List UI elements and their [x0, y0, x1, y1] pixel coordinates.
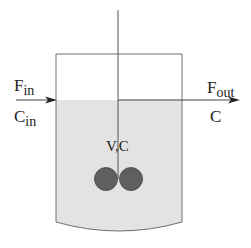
tank-volume-concentration-label: V,C [106, 138, 129, 154]
outlet-concentration-label: C [210, 107, 221, 126]
inlet-concentration-label: Cin [14, 107, 36, 129]
inlet-arrow-icon [16, 97, 57, 104]
cstr-diagram: Fin Cin Fout C V,C [0, 0, 251, 248]
liquid-region [56, 100, 182, 231]
inlet-flow-label: Fin [14, 76, 34, 98]
outlet-flow-label: Fout [207, 78, 234, 100]
